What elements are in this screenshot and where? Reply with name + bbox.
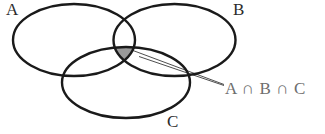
venn-diagram-figure: A B C A ∩ B ∩ C [0, 0, 325, 134]
set-b-label: B [233, 1, 244, 18]
set-a-ellipse [13, 4, 135, 76]
venn-diagram-canvas [0, 0, 325, 134]
intersection-annotation-label: A ∩ B ∩ C [225, 80, 306, 97]
set-a-label: A [6, 1, 18, 18]
set-b-ellipse [114, 4, 236, 76]
set-c-label: C [167, 113, 178, 130]
